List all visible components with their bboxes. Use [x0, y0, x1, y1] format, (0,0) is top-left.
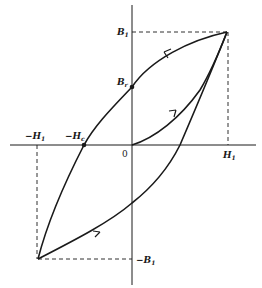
label-neg-b1: −B1	[136, 255, 155, 266]
label-neg-hc: −Hc	[65, 131, 85, 142]
label-h1: H1	[222, 150, 236, 161]
label-neg-h1: −H1	[25, 131, 45, 142]
remanence-point	[130, 85, 135, 90]
label-b1: B1	[116, 27, 129, 38]
label-origin: 0	[122, 149, 128, 159]
arrow-ascending-icon	[93, 231, 100, 237]
coercivity-point	[82, 143, 87, 148]
hysteresis-diagram: B1 Br −H1 −Hc 0 H1 −B1	[0, 0, 262, 288]
label-br: Br	[116, 77, 129, 88]
arrow-initial-icon	[169, 110, 176, 117]
